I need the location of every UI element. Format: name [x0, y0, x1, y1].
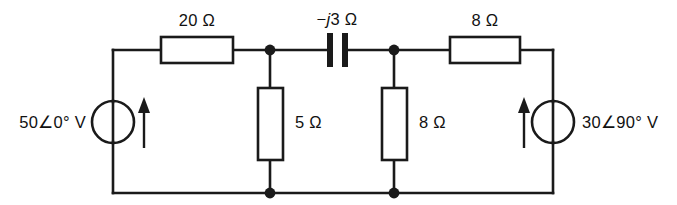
- resistor-20ohm-body: [161, 37, 233, 63]
- label-voltage-source-left: 50∠0° V: [19, 114, 86, 131]
- capacitor-label-prefix: −: [317, 10, 327, 28]
- label-resistor-8ohm-top: 8 Ω: [472, 12, 499, 29]
- circuit-diagram: 20 Ω −j3 Ω 8 Ω 5 Ω 8 Ω 50∠0° V 30∠90° V: [0, 0, 677, 205]
- label-voltage-source-right: 30∠90° V: [582, 114, 658, 131]
- label-capacitor: −j3 Ω: [317, 11, 358, 28]
- resistor-8ohm-shunt-body: [382, 88, 407, 160]
- resistor-8ohm-top-body: [450, 37, 520, 63]
- voltage-source-left-arrow-head: [138, 97, 150, 113]
- capacitor-label-suffix: 3 Ω: [330, 10, 357, 28]
- voltage-source-right-arrow-head: [518, 97, 530, 113]
- junction-dot-top-right: [389, 45, 400, 56]
- capacitor-plate-right: [342, 33, 348, 67]
- capacitor-plate-left: [327, 33, 333, 67]
- junction-dot-top-left: [265, 45, 276, 56]
- junction-dot-bottom-left: [265, 188, 276, 199]
- circuit-schematic-canvas: [0, 0, 677, 205]
- resistor-5ohm-body: [258, 88, 283, 160]
- junction-dot-bottom-right: [389, 188, 400, 199]
- label-resistor-8ohm-shunt: 8 Ω: [419, 114, 446, 131]
- label-resistor-20ohm: 20 Ω: [179, 12, 215, 29]
- label-resistor-5ohm: 5 Ω: [295, 114, 322, 131]
